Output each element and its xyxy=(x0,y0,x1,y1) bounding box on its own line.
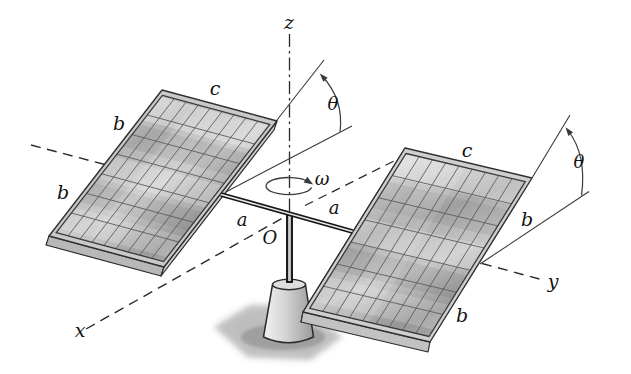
rotation-arrowhead xyxy=(304,177,314,185)
panel-edge-extension-line-right xyxy=(532,115,570,178)
arm-length-label-left: a xyxy=(237,209,248,230)
diagram-canvas: z x y O a a c c b b b b θ θ ω xyxy=(0,0,631,374)
panel-width-label-left: c xyxy=(210,77,221,99)
right-solar-panel xyxy=(301,148,532,352)
y-axis-label: y xyxy=(547,270,559,292)
panel-half-height-label-left-lower: b xyxy=(57,181,69,203)
z-axis-label: z xyxy=(283,11,295,33)
solar-panel-rotation-figure: z x y O a a c c b b b b θ θ ω xyxy=(0,0,631,374)
panel-half-height-label-left-upper: b xyxy=(113,112,125,134)
x-axis-label: x xyxy=(75,319,86,341)
arm-length-label-right: a xyxy=(329,197,340,218)
angle-arrowhead-right xyxy=(566,127,574,136)
angular-velocity-label: ω xyxy=(315,168,330,189)
tilt-angle-label-left: θ xyxy=(328,93,339,114)
y-axis-dashed-line-right xyxy=(482,264,545,281)
y-axis-dashed-line-left xyxy=(31,145,104,164)
panel-half-height-label-right-upper: b xyxy=(521,208,533,230)
origin-label: O xyxy=(263,227,278,248)
panel-width-label-right: c xyxy=(462,139,473,161)
panel-half-height-label-right-lower: b xyxy=(456,304,468,326)
panel-edge-extension-line-left xyxy=(277,60,324,120)
tilt-angle-label-right: θ xyxy=(574,151,585,172)
